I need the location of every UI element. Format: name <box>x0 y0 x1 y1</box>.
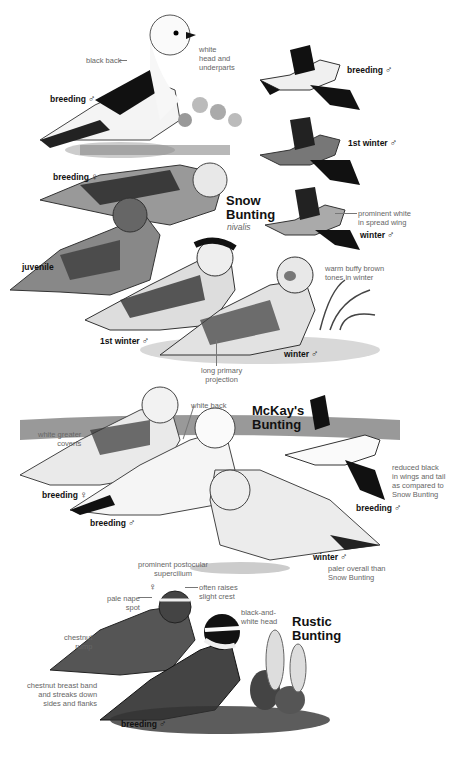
species-name-line1: Snow <box>226 194 275 208</box>
figure-label: breeding♂ <box>356 503 401 513</box>
subspecies-name: nivalis <box>227 222 251 232</box>
leader-line <box>216 340 217 366</box>
figure-label: breeding♀ <box>42 490 87 500</box>
species-title-rustic-bunting: Rustic Bunting <box>292 615 341 643</box>
annotation-white-head: white head and underparts <box>199 45 235 72</box>
figure-label: winter♂ <box>284 349 319 359</box>
figure-label: ♀ <box>147 582 157 592</box>
species-name-line1: Rustic <box>292 615 341 629</box>
annotation-pale-nape-spot: pale nape spot <box>107 594 140 612</box>
leader-line <box>119 60 127 61</box>
annotation-buffy-tones: warm buffy brown tones in winter <box>325 264 384 282</box>
figure-label: breeding♂ <box>50 94 95 104</box>
field-guide-plate: Snow Bunting nivalis McKay's Bunting Rus… <box>0 0 456 763</box>
figure-label: breeding♂ <box>90 518 135 528</box>
species-name-line2: Bunting <box>226 208 275 222</box>
figure-label: breeding♀ <box>53 172 98 182</box>
leader-line <box>138 597 152 598</box>
figure-label: breeding♂ <box>121 719 166 729</box>
species-title-mckays-bunting: McKay's Bunting <box>252 404 304 432</box>
annotation-primary-projection: long primary projection <box>201 366 242 384</box>
figure-label: juvenile <box>22 262 54 272</box>
leader-line <box>335 213 357 214</box>
annotation-paler-overall: paler overall than Snow Bunting <box>328 564 386 582</box>
annotation-greater-coverts: white greater coverts <box>38 430 81 448</box>
annotation-chestnut-breast-band: chestnut breast band and streaks down si… <box>27 681 97 708</box>
species-name-line2: Bunting <box>292 629 341 643</box>
species-title-snow-bunting: Snow Bunting <box>226 194 275 222</box>
snow-bunting-breeding-male-figure <box>40 15 242 158</box>
leader-line <box>185 587 198 588</box>
figure-label: winter♂ <box>313 552 348 562</box>
annotation-postocular-supercilium: prominent postocular supercilium <box>138 560 208 578</box>
annotation-prominent-white: prominent white in spread wing <box>358 209 411 227</box>
figure-label: 1st winter♂ <box>348 138 397 148</box>
annotation-chestnut-rump: chestnut rump <box>64 633 92 651</box>
annotation-slight-crest: often raises slight crest <box>199 583 238 601</box>
rustic-bunting-group <box>50 591 330 734</box>
figure-label: winter♂ <box>360 230 395 240</box>
annotation-black-back: black back <box>86 56 121 65</box>
annotation-reduced-black: reduced black in wings and tail as compa… <box>392 463 445 499</box>
annotation-white-back: white back <box>191 401 226 410</box>
species-name-line2: Bunting <box>252 418 304 432</box>
figure-label: breeding♂ <box>347 65 392 75</box>
species-name-line1: McKay's <box>252 404 304 418</box>
figure-label: 1st winter♂ <box>100 336 149 346</box>
annotation-black-white-head: black-and- white head <box>241 608 277 626</box>
mckays-bunting-group <box>20 387 400 574</box>
